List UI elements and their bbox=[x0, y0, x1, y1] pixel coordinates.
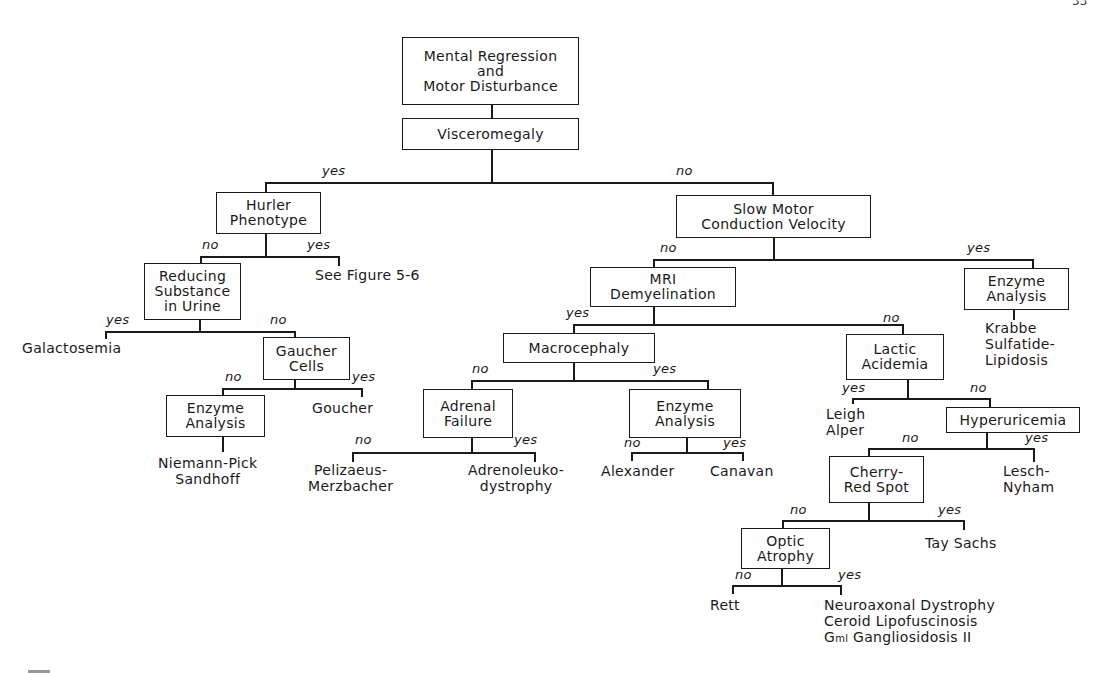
connector bbox=[352, 452, 354, 462]
leaf-goucher: Goucher bbox=[312, 400, 373, 416]
node-gaucher-cells: Gaucher Cells bbox=[263, 337, 350, 380]
decision-tree-diagram: 33 Mental Regression and Motor Disturban… bbox=[0, 0, 1099, 673]
connector bbox=[782, 520, 784, 528]
node-text: Hurler bbox=[246, 198, 291, 213]
connector bbox=[902, 324, 904, 334]
connector bbox=[1033, 448, 1035, 462]
node-text: Cells bbox=[289, 359, 324, 374]
branch-label-no: no bbox=[472, 361, 489, 376]
leaf-tay-sachs: Tay Sachs bbox=[925, 535, 997, 551]
leaf-text: Gangliosidosis II bbox=[848, 629, 971, 645]
node-hurler-phenotype: Hurler Phenotype bbox=[216, 192, 321, 234]
node-text: Analysis bbox=[185, 416, 245, 431]
page-number: 33 bbox=[1072, 0, 1087, 8]
node-enzyme-analysis-right: Enzyme Analysis bbox=[964, 268, 1069, 310]
leaf-text: Tay Sachs bbox=[925, 535, 997, 551]
branch-label-yes: yes bbox=[842, 380, 865, 395]
node-hyperuricemia: Hyperuricemia bbox=[946, 407, 1080, 433]
leaf-krabbe-sulfatide: Krabbe Sulfatide- Lipidosis bbox=[985, 320, 1055, 368]
node-text: Analysis bbox=[986, 289, 1046, 304]
branch-label-no: no bbox=[225, 369, 242, 384]
connector bbox=[338, 256, 340, 266]
branch-label-no: no bbox=[660, 240, 677, 255]
connector bbox=[963, 520, 965, 530]
branch-label-yes: yes bbox=[653, 361, 676, 376]
node-text: Failure bbox=[444, 414, 492, 429]
connector bbox=[265, 182, 772, 184]
node-text: Enzyme bbox=[187, 401, 244, 416]
branch-label-yes: yes bbox=[967, 240, 990, 255]
branch-label-yes: yes bbox=[838, 567, 861, 582]
node-text: Adrenal bbox=[440, 399, 496, 414]
node-text: Conduction Velocity bbox=[701, 217, 846, 232]
node-text: Phenotype bbox=[230, 213, 307, 228]
leaf-niemann-pick-sandhoff: Niemann-Pick Sandhoff bbox=[158, 455, 257, 487]
node-text: Enzyme bbox=[656, 399, 713, 414]
connector bbox=[491, 150, 493, 183]
connector bbox=[986, 433, 988, 448]
leaf-text: Krabbe bbox=[985, 320, 1055, 336]
branch-label-no: no bbox=[676, 163, 693, 178]
leaf-text: Ceroid Lipofuscinosis bbox=[824, 613, 995, 629]
connector bbox=[686, 438, 688, 452]
branch-label-no: no bbox=[735, 567, 752, 582]
branch-label-yes: yes bbox=[106, 312, 129, 327]
leaf-text: Lesch- bbox=[1003, 463, 1054, 479]
node-text: Acidemia bbox=[862, 357, 929, 372]
connector bbox=[352, 452, 535, 454]
leaf-pelizaeus-merzbacher: Pelizaeus- Merzbacher bbox=[308, 462, 393, 494]
node-text: Red Spot bbox=[844, 480, 909, 495]
node-mri-demyelination: MRI Demyelination bbox=[590, 267, 736, 307]
connector bbox=[471, 438, 473, 452]
connector bbox=[773, 238, 775, 259]
connector bbox=[732, 585, 841, 587]
branch-label-yes: yes bbox=[307, 237, 330, 252]
connector bbox=[294, 380, 296, 388]
connector bbox=[491, 105, 493, 118]
connector bbox=[265, 234, 267, 256]
node-text: Demyelination bbox=[610, 287, 716, 302]
connector bbox=[907, 380, 909, 398]
node-text: in Urine bbox=[164, 299, 221, 314]
connector bbox=[265, 182, 267, 192]
node-visceromegaly: Visceromegaly bbox=[402, 118, 579, 150]
connector bbox=[573, 324, 575, 333]
node-lactic-acidemia: Lactic Acidemia bbox=[846, 334, 944, 380]
connector bbox=[573, 324, 903, 326]
node-text: Visceromegaly bbox=[437, 127, 544, 142]
node-text: Optic bbox=[766, 534, 804, 549]
connector bbox=[852, 398, 854, 404]
connector bbox=[840, 585, 842, 595]
node-optic-atrophy: Optic Atrophy bbox=[741, 528, 830, 569]
connector bbox=[105, 331, 295, 333]
node-mental-regression: Mental Regression and Motor Disturbance bbox=[402, 37, 579, 105]
node-adrenal-failure: Adrenal Failure bbox=[423, 389, 513, 438]
leaf-alexander: Alexander bbox=[601, 463, 675, 479]
connector bbox=[1032, 259, 1034, 268]
node-text: Slow Motor bbox=[733, 202, 814, 217]
branch-label-yes: yes bbox=[352, 369, 375, 384]
branch-label-yes: yes bbox=[1025, 430, 1048, 445]
leaf-canavan: Canavan bbox=[710, 463, 774, 479]
leaf-text: Alexander bbox=[601, 463, 675, 479]
connector bbox=[105, 331, 107, 339]
node-text: Hyperuricemia bbox=[960, 413, 1067, 428]
leaf-gm1-gangliosidosis: Gml Gangliosidosis II bbox=[824, 629, 995, 647]
connector bbox=[199, 320, 201, 331]
node-macrocephaly: Macrocephaly bbox=[503, 333, 655, 363]
node-enzyme-analysis-mid: Enzyme Analysis bbox=[629, 389, 741, 438]
leaf-rett: Rett bbox=[710, 597, 740, 613]
connector bbox=[1013, 310, 1015, 320]
connector bbox=[573, 363, 575, 380]
branch-label-yes: yes bbox=[514, 432, 537, 447]
connector bbox=[471, 380, 473, 389]
leaf-text: Niemann-Pick bbox=[158, 455, 257, 471]
connector bbox=[222, 437, 224, 452]
node-text: Cherry- bbox=[850, 465, 904, 480]
leaf-adrenoleukodystrophy: Adrenoleuko- dystrophy bbox=[468, 462, 564, 494]
connector bbox=[222, 388, 362, 390]
leaf-text: See Figure 5-6 bbox=[315, 267, 420, 283]
branch-label-no: no bbox=[970, 380, 987, 395]
connector bbox=[631, 452, 743, 454]
connector bbox=[653, 307, 655, 324]
